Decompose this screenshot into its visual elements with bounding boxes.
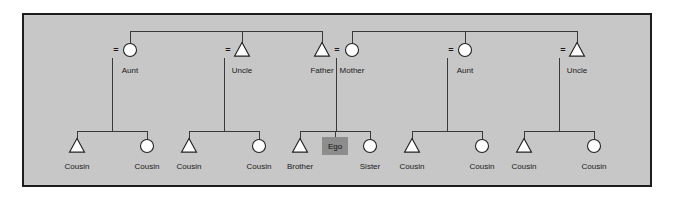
diagram-stage: Aunt=Uncle=FatherMother=Aunt=Uncle=Cousi… <box>0 0 675 200</box>
person-symbol-male-father[interactable] <box>315 43 330 57</box>
person-label-cousin: Cousin <box>470 162 495 171</box>
person-symbol-female-cousin[interactable] <box>253 140 266 153</box>
person-label-cousin: Cousin <box>177 162 202 171</box>
person-symbol-female-cousin[interactable] <box>476 140 489 153</box>
person-symbol-female-aunt[interactable] <box>459 44 472 57</box>
marriage-symbol: = <box>225 45 230 55</box>
person-label-cousin: Cousin <box>247 162 272 171</box>
person-label-cousin: Cousin <box>582 162 607 171</box>
person-symbol-female-mother[interactable] <box>346 44 359 57</box>
marriage-symbol: = <box>113 45 118 55</box>
person-symbol-female-cousin[interactable] <box>141 140 154 153</box>
person-symbol-female-aunt[interactable] <box>124 44 137 57</box>
person-symbol-male-cousin[interactable] <box>405 139 420 153</box>
person-label-father: Father <box>310 66 333 75</box>
marriage-symbol: = <box>334 45 339 55</box>
person-symbol-male-uncle[interactable] <box>235 43 250 57</box>
person-label-aunt: Aunt <box>122 66 138 75</box>
person-label-uncle: Uncle <box>567 66 587 75</box>
person-symbol-male-cousin[interactable] <box>70 139 85 153</box>
person-symbol-male-uncle[interactable] <box>570 43 585 57</box>
person-label-cousin: Cousin <box>512 162 537 171</box>
marriage-symbol: = <box>560 45 565 55</box>
person-symbol-male-cousin[interactable] <box>182 139 197 153</box>
person-symbol-male-cousin[interactable] <box>517 139 532 153</box>
person-label-aunt: Aunt <box>457 66 473 75</box>
figure-frame: Aunt=Uncle=FatherMother=Aunt=Uncle=Cousi… <box>0 0 675 200</box>
person-symbol-female-sister[interactable] <box>364 140 377 153</box>
kinship-diagram-svg <box>0 0 675 200</box>
person-label-sister: Sister <box>360 162 380 171</box>
person-symbol-male-brother[interactable] <box>293 139 308 153</box>
person-symbol-ego[interactable]: Ego <box>322 137 348 155</box>
person-label-uncle: Uncle <box>232 66 252 75</box>
person-label-cousin: Cousin <box>65 162 90 171</box>
person-label-cousin: Cousin <box>135 162 160 171</box>
person-label-brother: Brother <box>287 162 313 171</box>
person-label-cousin: Cousin <box>400 162 425 171</box>
person-label-mother: Mother <box>340 66 365 75</box>
marriage-symbol: = <box>448 45 453 55</box>
person-symbol-female-cousin[interactable] <box>588 140 601 153</box>
